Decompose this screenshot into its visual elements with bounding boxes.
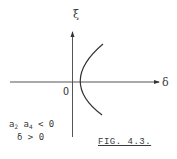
condition-line-2: δ > 0 bbox=[17, 133, 44, 142]
condition-line-1: a2 a4 < 0 bbox=[9, 120, 54, 130]
parabola-curve bbox=[80, 44, 103, 115]
y-axis-label: ξ bbox=[73, 9, 79, 20]
figure-caption: FIG. 4.3. bbox=[98, 138, 151, 147]
inequality: < 0 bbox=[33, 119, 55, 129]
x-axis-label: δ bbox=[162, 77, 169, 88]
origin-label: O bbox=[63, 87, 69, 97]
coef-a4: a bbox=[18, 119, 29, 129]
